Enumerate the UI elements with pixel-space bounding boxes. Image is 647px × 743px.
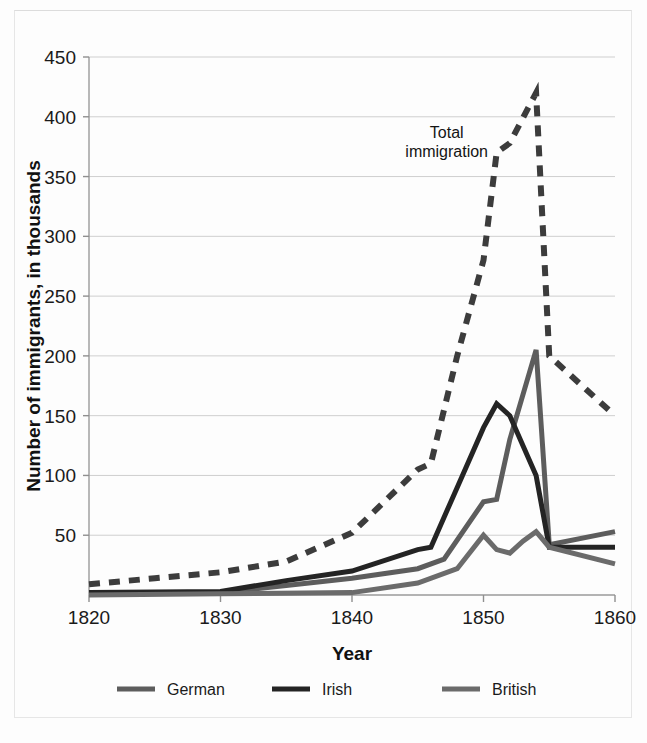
x-axis-tick-labels: 18201830184018501860 [68, 607, 636, 628]
y-tick-label: 250 [44, 286, 76, 307]
legend-item-german[interactable]: German [117, 681, 225, 698]
legend-item-british[interactable]: British [442, 681, 536, 698]
chart-annotations: Totalimmigration [405, 124, 488, 160]
y-tick-label: 300 [44, 226, 76, 247]
legend-label: British [492, 681, 536, 698]
series-line-british [89, 532, 615, 595]
x-tick-label: 1840 [331, 607, 373, 628]
y-tick-label: 50 [55, 525, 76, 546]
y-axis-title: Number of immigrants, in thousands [23, 160, 44, 491]
x-axis-title: Year [332, 643, 373, 664]
y-tick-label: 350 [44, 167, 76, 188]
series-line-irish [89, 404, 615, 593]
y-tick-label: 200 [44, 346, 76, 367]
legend-label: German [167, 681, 225, 698]
y-tick-label: 100 [44, 465, 76, 486]
data-series-group [89, 93, 615, 595]
y-axis-tick-labels: 50100150200250300350400450 [44, 47, 76, 546]
x-tick-label: 1820 [68, 607, 110, 628]
series-line-total [89, 93, 615, 584]
legend-item-irish[interactable]: Irish [272, 681, 352, 698]
y-tick-label: 150 [44, 406, 76, 427]
chart-page: 50100150200250300350400450 1820183018401… [0, 0, 647, 743]
immigration-line-chart: 50100150200250300350400450 1820183018401… [0, 0, 647, 743]
y-axis-tick-marks [83, 57, 89, 535]
x-tick-label: 1860 [594, 607, 636, 628]
total-immigration-label: Totalimmigration [405, 124, 488, 160]
x-tick-label: 1830 [199, 607, 241, 628]
x-tick-label: 1850 [462, 607, 504, 628]
y-tick-label: 400 [44, 107, 76, 128]
legend-label: Irish [322, 681, 352, 698]
chart-legend: GermanIrishBritish [117, 681, 536, 698]
y-tick-label: 450 [44, 47, 76, 68]
